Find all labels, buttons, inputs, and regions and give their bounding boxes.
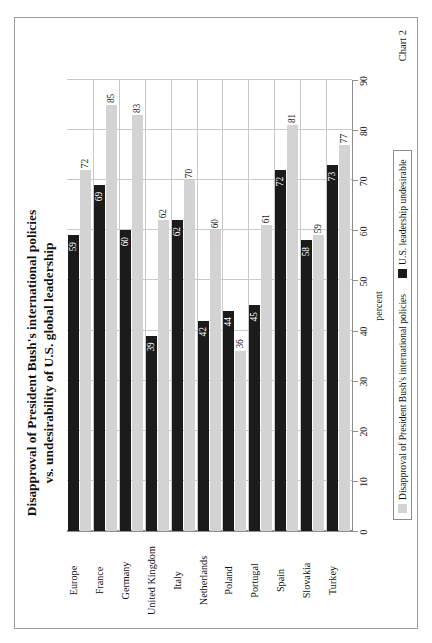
bar-value-label: 45 — [249, 312, 260, 321]
bar-disapproval-of-president-bush-s-international-policies-europe — [80, 170, 91, 531]
bar-disapproval-of-president-bush-s-international-policies-portugal — [261, 225, 272, 531]
bar-value-label: 85 — [106, 94, 117, 103]
bar-disapproval-of-president-bush-s-international-policies-italy — [184, 180, 195, 531]
bar-u-s-leadership-undesirable-europe — [68, 235, 79, 531]
bar-value-label: 36 — [235, 339, 246, 348]
bar-value-label: 39 — [146, 342, 157, 351]
bar-value-label: 58 — [301, 247, 312, 256]
chart-title: Disapproval of President Bush's internat… — [23, 128, 57, 598]
x-tick-label-10: 10 — [358, 467, 369, 497]
bar-u-s-leadership-undesirable-turkey — [327, 165, 338, 531]
x-tick-label-20: 20 — [358, 417, 369, 447]
category-label: France — [94, 531, 106, 623]
plot-area: Europe5972France6985Germany6083United Ki… — [67, 80, 353, 532]
x-axis-ticks: 0102030405060708090 — [353, 80, 371, 532]
x-tick-label-30: 30 — [358, 367, 369, 397]
bar-u-s-leadership-undesirable-france — [94, 185, 105, 531]
chart-title-line-1: Disapproval of President Bush's internat… — [24, 210, 39, 516]
chart-canvas: Disapproval of President Bush's internat… — [15, 18, 417, 628]
page-frame: Disapproval of President Bush's internat… — [14, 17, 418, 629]
bar-disapproval-of-president-bush-s-international-policies-spain — [287, 125, 298, 531]
x-tick-label-40: 40 — [358, 317, 369, 347]
category-label: Portugal — [249, 531, 261, 623]
x-tick-label-0: 0 — [358, 517, 369, 547]
bar-value-label: 83 — [132, 104, 143, 113]
gridline-90 — [67, 79, 352, 80]
category-label: Spain — [275, 531, 287, 623]
legend-swatch-black-icon — [398, 269, 407, 278]
chart-legend: Disapproval of President Bush's internat… — [393, 150, 412, 520]
bar-value-label: 72 — [275, 177, 286, 186]
bar-disapproval-of-president-bush-s-international-policies-united-kingdom — [158, 220, 169, 531]
bar-value-label: 59 — [313, 224, 324, 233]
bar-u-s-leadership-undesirable-spain — [275, 170, 286, 531]
bar-disapproval-of-president-bush-s-international-policies-netherlands — [210, 230, 221, 531]
bar-disapproval-of-president-bush-s-international-policies-germany — [132, 115, 143, 531]
x-axis-title: percent — [373, 80, 384, 532]
bar-value-label: 59 — [68, 242, 79, 251]
category-label: United Kingdom — [146, 531, 158, 623]
x-tick-label-70: 70 — [358, 166, 369, 196]
x-tick-label-50: 50 — [358, 266, 369, 296]
bar-value-label: 60 — [210, 219, 221, 228]
bar-u-s-leadership-undesirable-poland — [223, 311, 234, 531]
bar-u-s-leadership-undesirable-united-kingdom — [146, 336, 157, 531]
category-label: Italy — [172, 531, 184, 623]
bar-disapproval-of-president-bush-s-international-policies-slovakia — [313, 235, 324, 531]
x-tick-label-60: 60 — [358, 216, 369, 246]
bar-disapproval-of-president-bush-s-international-policies-poland — [235, 351, 246, 531]
category-label: Poland — [223, 531, 235, 623]
category-label: Germany — [120, 531, 132, 623]
bar-value-label: 69 — [94, 192, 105, 201]
bar-value-label: 70 — [184, 169, 195, 178]
legend-swatch-gray-icon — [398, 504, 407, 513]
bar-u-s-leadership-undesirable-portugal — [249, 306, 260, 532]
bar-u-s-leadership-undesirable-italy — [172, 220, 183, 531]
category-label: Slovakia — [301, 531, 313, 623]
bar-value-label: 62 — [158, 209, 169, 218]
category-label: Europe — [68, 531, 80, 623]
bar-u-s-leadership-undesirable-slovakia — [301, 240, 312, 531]
bar-u-s-leadership-undesirable-netherlands — [198, 321, 209, 531]
legend-item-1: U.S. leadership undesirable — [397, 159, 408, 278]
chart-caption: Chart 2 — [397, 30, 408, 61]
bar-value-label: 62 — [172, 227, 183, 236]
x-tick-label-80: 80 — [358, 116, 369, 146]
legend-item-0: Disapproval of President Bush's internat… — [397, 294, 408, 513]
bar-value-label: 42 — [198, 327, 209, 336]
chart-title-line-2: vs. undesirability of U.S. global leader… — [40, 128, 57, 598]
bar-disapproval-of-president-bush-s-international-policies-turkey — [339, 145, 350, 531]
bar-value-label: 72 — [80, 159, 91, 168]
bar-disapproval-of-president-bush-s-international-policies-france — [106, 105, 117, 531]
bar-value-label: 81 — [287, 114, 298, 123]
bar-value-label: 60 — [120, 237, 131, 246]
category-label: Netherlands — [198, 531, 210, 623]
legend-label-1: U.S. leadership undesirable — [397, 159, 408, 265]
x-tick-label-90: 90 — [358, 66, 369, 96]
chart-rotation-wrapper: Disapproval of President Bush's internat… — [15, 18, 417, 628]
bar-value-label: 73 — [327, 172, 338, 181]
bar-u-s-leadership-undesirable-germany — [120, 230, 131, 531]
category-label: Turkey — [327, 531, 339, 623]
bar-value-label: 77 — [339, 134, 350, 143]
bar-value-label: 44 — [223, 317, 234, 326]
bar-value-label: 61 — [261, 214, 272, 223]
legend-label-0: Disapproval of President Bush's internat… — [397, 294, 408, 500]
